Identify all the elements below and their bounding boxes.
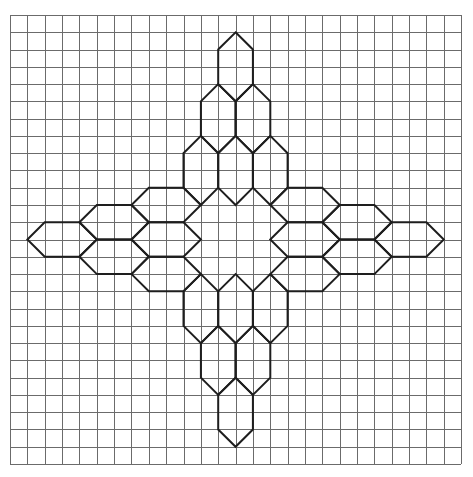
hexagon-vertical-bottom-arm bbox=[184, 274, 219, 343]
square-grid bbox=[10, 15, 462, 465]
hexagon-vertical-top-arm bbox=[218, 32, 253, 101]
hexagon-vertical-bottom-arm bbox=[218, 274, 253, 343]
grid-diagram bbox=[0, 0, 473, 477]
hexagon-vertical-top-arm bbox=[236, 84, 271, 153]
hexagon-star-pattern bbox=[27, 32, 443, 447]
